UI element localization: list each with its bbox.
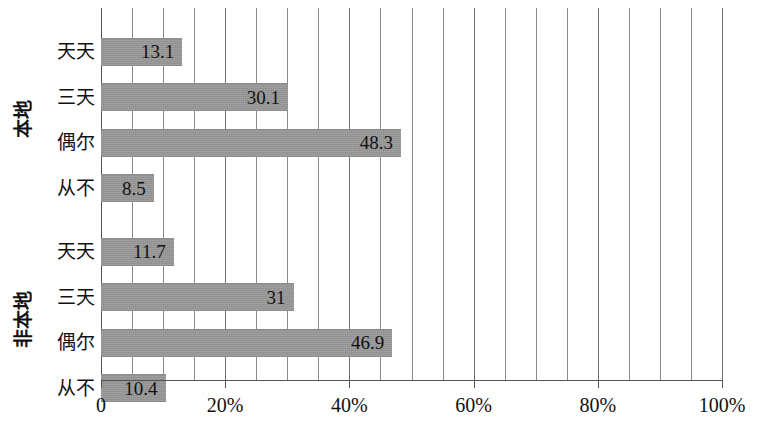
gridline (225, 8, 226, 381)
gridline (256, 8, 257, 381)
bar-value-label: 11.7 (101, 242, 166, 261)
x-axis-line (101, 380, 722, 381)
x-tick-label: 60% (455, 395, 492, 415)
category-label: 天天 (35, 42, 95, 61)
group-axis-label-local: 本地 (8, 28, 32, 210)
gridline (691, 8, 692, 381)
x-tick-label: 20% (207, 395, 244, 415)
gridline (194, 8, 195, 381)
x-tick-label: 0 (96, 395, 106, 415)
x-tick-mark (225, 381, 226, 388)
gridline (598, 8, 599, 381)
x-tick-mark (722, 381, 723, 388)
category-label: 三天 (35, 88, 95, 107)
gridline (412, 8, 413, 381)
gridline (660, 8, 661, 381)
bar-value-label: 30.1 (101, 88, 280, 107)
category-label: 天天 (35, 242, 95, 261)
bar-value-label: 48.3 (101, 133, 393, 152)
x-tick-mark (349, 381, 350, 388)
category-label: 偶尔 (35, 333, 95, 352)
gridline (318, 8, 319, 381)
category-label: 从不 (35, 179, 95, 198)
bar-chart: 本地 非本地 天天三天偶尔从不天天三天偶尔从不 13.130.148.38.51… (0, 0, 758, 425)
gridline (443, 8, 444, 381)
category-label: 从不 (35, 379, 95, 398)
gridline (380, 8, 381, 381)
bar-value-label: 31 (101, 288, 286, 307)
group-axis-label-nonlocal: 非本地 (8, 228, 32, 410)
x-tick-label: 40% (331, 395, 368, 415)
x-tick-label: 80% (579, 395, 616, 415)
gridline (287, 8, 288, 381)
x-tick-mark (598, 381, 599, 388)
category-label: 三天 (35, 288, 95, 307)
x-tick-label: 100% (699, 395, 746, 415)
gridline (629, 8, 630, 381)
category-label: 偶尔 (35, 133, 95, 152)
bar-value-label: 13.1 (101, 42, 174, 61)
gridline (722, 8, 723, 381)
bar-value-label: 8.5 (101, 179, 146, 198)
plot-area (101, 8, 722, 381)
x-tick-mark (474, 381, 475, 388)
gridline (505, 8, 506, 381)
gridline (349, 8, 350, 381)
bar-value-label: 10.4 (101, 379, 158, 398)
bar-value-label: 46.9 (101, 333, 384, 352)
gridline (567, 8, 568, 381)
x-tick-mark (101, 381, 102, 388)
gridline (536, 8, 537, 381)
gridline (474, 8, 475, 381)
